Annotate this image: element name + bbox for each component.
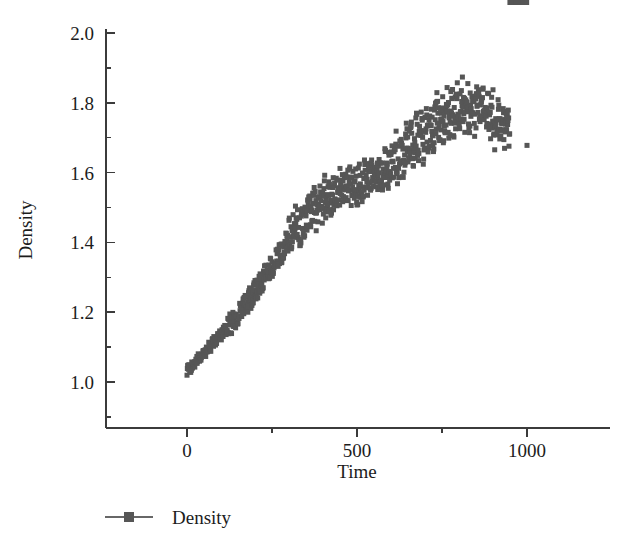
data-point-marker [346,198,351,203]
data-point-marker [472,121,477,126]
data-point-marker [462,117,467,122]
data-point-marker [502,146,507,151]
data-point-marker [203,354,208,359]
data-point-marker [460,75,465,80]
data-point-marker [409,120,414,125]
y-axis-title: Density [15,200,36,260]
data-point-marker [429,123,434,128]
data-point-marker [440,94,445,99]
data-point-marker [434,90,439,95]
data-point-marker [496,97,501,102]
data-point-marker [290,239,295,244]
data-point-marker [467,130,472,135]
data-point-marker [314,228,319,233]
data-point-marker [431,147,436,152]
y-tick-label: 1.2 [70,302,94,323]
data-point-marker [432,140,437,145]
y-tick-label: 1.0 [70,372,94,393]
data-point-marker [472,134,477,139]
data-point-marker [261,285,266,290]
data-point-marker [441,138,446,143]
x-axis-tick-labels: 05001000 [182,440,546,461]
data-point-marker [302,233,307,238]
data-point-marker [229,331,234,336]
y-tick-label: 1.8 [70,93,94,114]
data-point-marker [474,125,479,130]
data-point-marker [452,105,457,110]
y-tick-label: 2.0 [70,23,94,44]
x-tick-label: 500 [343,440,372,461]
data-point-marker [488,110,493,115]
y-axis-ticks [106,33,115,417]
data-point-marker [481,86,486,91]
data-point-marker [465,81,470,86]
data-point-marker [320,221,325,226]
data-point-marker [417,124,422,129]
data-point-marker [349,203,354,208]
x-axis-ticks [187,428,527,437]
legend-entry-label: Density [172,507,232,528]
data-point-marker [385,162,390,167]
data-point-marker [323,215,328,220]
data-point-marker [507,131,512,136]
data-point-marker [506,115,511,120]
x-axis-title: Time [337,461,376,482]
data-point-marker [394,129,399,134]
data-point-marker [236,321,241,326]
data-point-marker [424,106,429,111]
data-point-marker [421,157,426,162]
data-point-marker [419,110,424,115]
data-point-marker [411,164,416,169]
x-tick-label: 0 [182,440,192,461]
data-point-marker [289,244,294,249]
data-point-marker [380,161,385,166]
y-tick-label: 1.4 [70,232,94,253]
data-point-marker [255,295,260,300]
data-point-marker [214,341,219,346]
data-point-marker [401,170,406,175]
x-tick-label: 1000 [508,440,546,461]
data-point-marker [386,186,391,191]
data-point-marker [450,87,455,92]
data-point-marker [506,144,511,149]
data-point-marker [315,219,320,224]
data-point-marker [480,95,485,100]
axes [106,29,610,437]
data-point-marker [414,112,419,117]
data-point-marker [391,159,396,164]
data-point-marker [454,96,459,101]
data-point-marker [525,143,530,148]
y-tick-label: 1.6 [70,163,94,184]
data-point-marker [318,198,323,203]
data-point-marker [271,271,276,276]
data-point-marker [496,103,501,108]
data-point-marker [455,80,460,85]
data-point-marker [355,202,360,207]
data-point-marker [489,95,494,100]
data-point-marker [457,126,462,131]
data-point-marker [524,0,529,5]
data-point-marker [322,178,327,183]
data-point-marker [298,240,303,245]
data-point-marker [420,135,425,140]
data-point-marker [506,108,511,113]
data-point-marker [467,124,472,129]
data-point-marker [492,147,497,152]
data-series-density [185,0,530,378]
data-point-marker [409,131,414,136]
data-point-marker [308,224,313,229]
data-point-marker [416,158,421,163]
density-time-series-figure: 1.01.21.41.61.82.0 05001000 Density Time… [0,0,640,555]
data-point-marker [501,137,506,142]
chart-canvas: 1.01.21.41.61.82.0 05001000 Density Time… [0,0,640,555]
y-axis-tick-labels: 1.01.21.41.61.82.0 [70,23,94,393]
legend-square-marker [124,512,134,522]
data-point-marker [404,121,409,126]
data-point-marker [459,88,464,93]
data-point-marker [365,193,370,198]
data-point-marker [489,105,494,110]
data-point-marker [313,189,318,194]
data-point-marker [360,199,365,204]
data-point-marker [491,87,496,92]
data-point-marker [396,166,401,171]
